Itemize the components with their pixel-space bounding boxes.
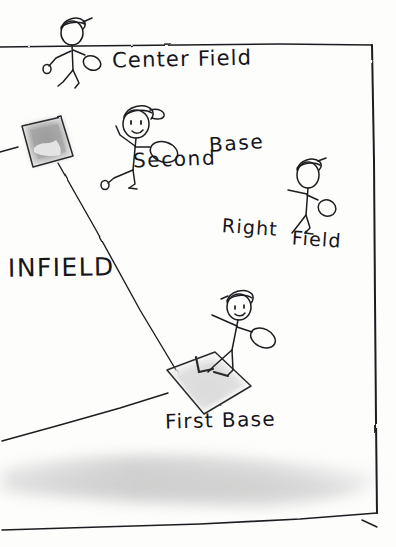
label-second-base-word2: Base (208, 129, 265, 157)
baseline-to-third (0, 147, 18, 152)
label-center-field-text: Center Field (112, 46, 253, 73)
figure-first-baseman (208, 291, 279, 375)
label-right-field: Right Field (222, 216, 278, 238)
label-infield: INFIELD (8, 252, 115, 282)
label-right-field-word2: Field (291, 226, 342, 251)
label-infield-text: INFIELD (8, 252, 115, 282)
first-base-square (167, 352, 251, 414)
label-second-base-word1: Second (133, 146, 217, 173)
figure-right-fielder (288, 158, 339, 234)
second-base-square (22, 117, 73, 167)
label-right-field-word1: Right (221, 214, 278, 240)
label-first-base: First Base (165, 407, 277, 434)
baseball-field-sketch: Center Field Second Base Right Field INF… (0, 0, 396, 547)
label-center-field: Center Field (112, 46, 253, 73)
base-lines (0, 147, 182, 441)
label-second-base: Second Base (133, 147, 216, 171)
label-first-base-text: First Base (165, 407, 277, 434)
baseline-first-to-home (2, 393, 168, 441)
figure-center-fielder (43, 18, 103, 88)
ground-smudge (2, 455, 380, 506)
